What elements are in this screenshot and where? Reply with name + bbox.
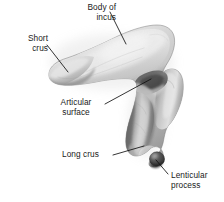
label-short-crus: Short crus (2, 33, 48, 53)
label-body-of-incus-line1: Body of (44, 2, 116, 12)
label-lenticular-process-line1: Lenticular (171, 170, 223, 180)
label-articular-surface-line1: Articular (44, 97, 108, 107)
label-lenticular-process: Lenticular process (171, 170, 223, 190)
incus-figure: Body of incus Short crus Articular surfa… (0, 0, 224, 202)
label-articular-surface-line2: surface (44, 107, 108, 117)
label-body-of-incus: Body of incus (44, 2, 116, 22)
label-long-crus: Long crus (62, 149, 110, 159)
label-articular-surface: Articular surface (44, 97, 108, 117)
lenticular-process-knob (149, 152, 164, 168)
label-short-crus-line1: Short (2, 33, 48, 43)
label-short-crus-line2: crus (2, 43, 48, 53)
label-body-of-incus-line2: incus (44, 12, 116, 22)
label-long-crus-line1: Long crus (62, 149, 110, 159)
label-lenticular-process-line2: process (171, 180, 223, 190)
